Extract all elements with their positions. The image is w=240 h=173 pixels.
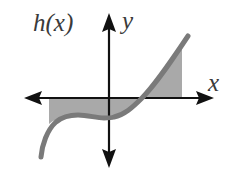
function-graph: h(x) y x <box>0 0 240 173</box>
x-axis-label: x <box>208 70 219 95</box>
function-label: h(x) <box>33 10 73 35</box>
y-axis-label: y <box>122 8 133 33</box>
shaded-area <box>49 46 182 124</box>
